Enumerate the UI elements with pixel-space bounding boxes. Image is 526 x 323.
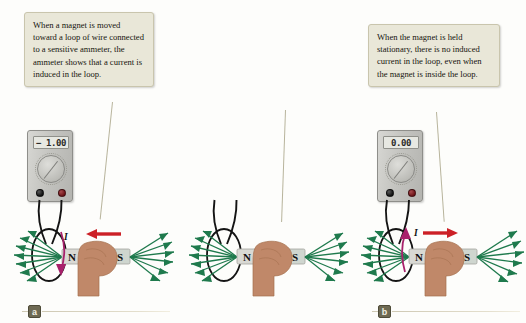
magnet-north-label-a: N [68,251,76,263]
panel-badge-a: a [28,305,41,318]
hand-b [253,241,292,296]
field-lines-right-a [130,233,174,281]
panel-c: When the magnet is moved away from the l… [351,0,526,323]
field-arrowheads-left-a [14,231,37,282]
panel-label-strip-a: a [22,303,170,319]
lead-wire-black-c [386,200,393,244]
lead-wire-black-a [39,200,46,244]
current-label-c: I [413,228,418,238]
field-arrowheads-right-a [150,233,174,281]
magnet-south-label-a: S [117,251,123,263]
field-lines-right-b [305,233,349,281]
field-arrowheads-left-b [189,231,212,282]
panel-b: When the magnet is held stationary, ther… [175,0,350,323]
current-label-a: I [63,232,68,242]
panel-a: When a magnet is moved toward a loop of … [0,0,175,323]
lead-wire-red-a [52,200,62,244]
field-arrowheads-left-c [361,231,384,282]
strip-rule-a [42,311,170,312]
lead-wire-black-b [214,200,221,244]
magnet-south-label-b: S [292,251,298,263]
field-arrowheads-right-b [325,233,349,281]
scene-a: N S [0,0,175,323]
scene-c: N S [351,0,526,323]
field-arrowheads-right-c [498,231,524,282]
scene-b: N S [175,0,350,323]
hand-c [425,241,464,296]
motion-arrow-c [423,228,458,238]
wire-loop-b [207,229,241,281]
hand-a [78,241,117,296]
magnet-south-label-c: S [464,251,470,263]
lead-wire-red-b [227,200,237,244]
induction-figure: When a magnet is moved toward a loop of … [0,0,526,323]
magnet-north-label-c: N [415,251,423,263]
magnet-north-label-b: N [243,251,251,263]
motion-arrow-a [86,229,121,239]
